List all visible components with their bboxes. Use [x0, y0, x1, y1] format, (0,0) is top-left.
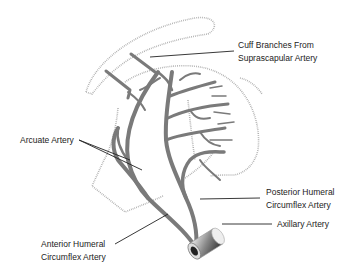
- leader-anterior-humeral: [115, 214, 168, 244]
- label-axillary: Axillary Artery: [277, 218, 329, 231]
- leader-arcuate-2: [79, 140, 142, 170]
- leader-posterior-humeral: [200, 198, 260, 199]
- label-line-1: Cuff Branches From: [238, 39, 317, 52]
- label-cuff-branches: Cuff Branches From Suprascapular Artery: [238, 39, 317, 64]
- axillary-cylinder: [185, 226, 227, 261]
- leader-cuff-branches: [150, 51, 234, 57]
- leader-lines: [79, 51, 272, 244]
- label-line-1: Anterior Humeral: [41, 238, 106, 251]
- label-line-2: Circumflex Artery: [41, 251, 106, 264]
- label-line-2: Circumflex Artery: [266, 199, 335, 212]
- label-posterior-humeral: Posterior Humeral Circumflex Artery: [266, 186, 335, 211]
- label-arcuate: Arcuate Artery: [20, 134, 74, 147]
- label-anterior-humeral: Anterior Humeral Circumflex Artery: [41, 238, 106, 263]
- label-line-2: Suprascapular Artery: [238, 52, 317, 65]
- artery-tree: [106, 54, 234, 248]
- label-line-1: Posterior Humeral: [266, 186, 335, 199]
